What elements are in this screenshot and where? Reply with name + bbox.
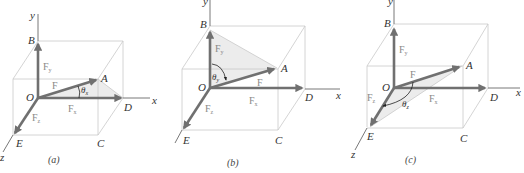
label-o: O [198,81,206,93]
label-a: A [465,59,473,71]
label-d: D [489,91,498,103]
label-fz: Fz [32,112,41,124]
label-f: F [52,80,58,91]
label-a: A [100,72,108,84]
label-o: O [382,81,390,93]
label-x: x [335,89,341,101]
label-fx: Fx [249,95,258,107]
label-y: y [202,0,208,7]
label-c: C [460,132,468,144]
z-axis [355,128,367,150]
caption-a: (a) [48,154,60,166]
label-b: B [28,34,35,46]
label-x: x [151,94,157,106]
label-y: y [387,0,393,7]
label-fz: Fz [367,92,376,104]
label-b: B [384,17,391,29]
label-fy: Fy [43,61,52,73]
panel-b: y B Fy θy A F O Fx D x Fz E C (b) [175,0,341,169]
label-o: O [26,91,34,103]
label-e: E [15,137,23,149]
label-fx: Fx [429,93,438,105]
label-z: z [350,148,356,160]
label-f: F [410,69,416,80]
caption-b: (b) [227,157,239,169]
z-axis [175,130,182,143]
label-e: E [182,134,190,146]
label-c: C [275,134,283,146]
z-axis [3,135,13,152]
label-x: x [515,86,521,98]
label-fy: Fy [399,44,408,56]
label-fx: Fx [68,103,77,115]
panel-a: y B Fy F θx A O Fx D x Fz E C z (a) [0,9,157,166]
label-f: F [257,77,263,88]
label-fz: Fz [205,103,214,115]
caption-c: (c) [405,154,417,166]
label-a: A [280,62,288,74]
label-b: B [200,18,207,30]
force-component-diagram: y B Fy F θx A O Fx D x Fz E C z (a) [0,0,524,173]
label-y: y [29,9,35,21]
label-d: D [304,91,313,103]
label-e: E [366,130,374,142]
label-z: z [0,151,5,163]
panel-c: y B Fy A F O Fx D x Fz θz E C z (c) [350,0,521,166]
label-c: C [97,137,105,149]
label-d: D [123,101,132,113]
